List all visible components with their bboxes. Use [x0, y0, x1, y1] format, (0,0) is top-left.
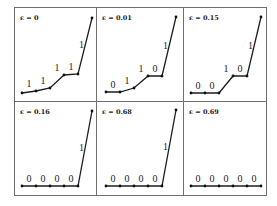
figure-grid: ε = 011111ε = 0.0101101ε = 0.1500101ε = … [0, 0, 277, 206]
vertex-dot [147, 185, 150, 188]
segment-label: 0 [111, 173, 116, 184]
vertex-dot [161, 75, 164, 78]
segment-label: 1 [163, 141, 168, 152]
segment-label: 0 [210, 80, 215, 91]
vertex-dot [119, 185, 122, 188]
segment-label: 0 [196, 173, 201, 184]
segment-label: 0 [153, 173, 158, 184]
vertex-dot [204, 185, 207, 188]
vertex-dot [260, 185, 263, 188]
segment-label: 0 [125, 173, 130, 184]
vertex-dot [133, 185, 136, 188]
piecewise-line [106, 17, 176, 92]
vertex-dot [218, 185, 221, 188]
panel: ε = 0.0101101 [102, 14, 177, 93]
vertex-dot [105, 91, 108, 94]
segment-label: 1 [224, 63, 229, 74]
vertex-dot [119, 91, 122, 94]
segment-label: 1 [163, 40, 168, 51]
segment-label: 0 [139, 173, 144, 184]
segment-label: 0 [55, 173, 60, 184]
vertex-dot [35, 90, 38, 93]
vertex-dot [77, 185, 80, 188]
panel-label: ε = 0.69 [189, 108, 219, 116]
vertex-dot [35, 185, 38, 188]
panel-label: ε = 0 [20, 14, 39, 22]
piecewise-line [191, 17, 261, 93]
vertex-dot [190, 185, 193, 188]
vertex-dot [105, 185, 108, 188]
segment-label: 0 [196, 80, 201, 91]
piecewise-line [22, 18, 92, 93]
vertex-dot [133, 87, 136, 90]
segment-label: 1 [125, 75, 130, 86]
vertex-dot [190, 92, 193, 95]
segment-label: 0 [27, 173, 32, 184]
segment-label: 0 [238, 63, 243, 74]
grid-frame [15, 8, 267, 196]
vertex-dot [232, 185, 235, 188]
vertex-dot [77, 73, 80, 76]
panel-label: ε = 0.01 [102, 14, 132, 22]
panel: ε = 011111 [20, 14, 93, 94]
segment-label: 0 [238, 173, 243, 184]
vertex-dot [218, 92, 221, 95]
panel: ε = 0.1600001 [20, 108, 93, 187]
segment-label: 1 [41, 75, 46, 86]
vertex-dot [63, 74, 66, 77]
vertex-dot [175, 16, 178, 19]
vertex-dot [147, 75, 150, 78]
segment-label: 1 [139, 63, 144, 74]
vertex-dot [246, 75, 249, 78]
vertex-dot [232, 75, 235, 78]
vertex-dot [204, 92, 207, 95]
vertex-dot [49, 87, 52, 90]
vertex-dot [161, 185, 164, 188]
segment-label: 0 [210, 173, 215, 184]
panel-label: ε = 0.68 [102, 108, 132, 116]
vertex-dot [63, 185, 66, 188]
vertex-dot [246, 185, 249, 188]
segment-label: 1 [27, 78, 32, 89]
segment-label: 1 [248, 40, 253, 51]
segment-label: 0 [224, 173, 229, 184]
segment-label: 0 [252, 173, 257, 184]
panel: ε = 0.1500101 [189, 14, 262, 94]
vertex-dot [21, 92, 24, 95]
panel-label: ε = 0.15 [189, 14, 219, 22]
segment-label: 1 [79, 39, 84, 50]
segment-label: 0 [69, 173, 74, 184]
vertex-dot [260, 16, 263, 19]
panel-label: ε = 0.16 [20, 108, 50, 116]
segment-label: 1 [69, 61, 74, 72]
segment-label: 0 [41, 173, 46, 184]
vertex-dot [175, 109, 178, 112]
segment-label: 1 [55, 62, 60, 73]
vertex-dot [91, 110, 94, 113]
panel: ε = 0.6900000 [189, 108, 262, 187]
vertex-dot [91, 17, 94, 20]
panel: ε = 0.6800001 [102, 108, 177, 187]
segment-label: 1 [79, 142, 84, 153]
vertex-dot [49, 185, 52, 188]
vertex-dot [21, 185, 24, 188]
segment-label: 0 [111, 79, 116, 90]
segment-label: 0 [153, 63, 158, 74]
